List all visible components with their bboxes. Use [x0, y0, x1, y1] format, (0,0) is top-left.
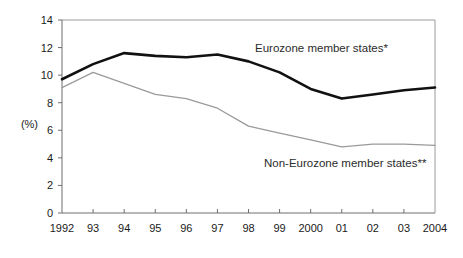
x-tick-label-1999: 99: [273, 222, 285, 234]
x-tick-label-1996: 96: [180, 222, 192, 234]
x-tick-label-2002: 02: [367, 222, 379, 234]
x-tick-label-2001: 01: [336, 222, 348, 234]
x-tick-label-1998: 98: [242, 222, 254, 234]
unemployment-rate-line-chart: 02468101214 1992939495969798992000010203…: [0, 0, 463, 258]
x-tick-label-2004: 2004: [423, 222, 447, 234]
chart-canvas: 02468101214 1992939495969798992000010203…: [0, 0, 463, 258]
series-label-non-eurozone: Non-Eurozone member states**: [264, 157, 427, 169]
x-tick-label-2000: 2000: [298, 222, 322, 234]
y-tick-label-6: 6: [47, 124, 53, 136]
x-tick-label-1995: 95: [149, 222, 161, 234]
x-tick-label-1992: 1992: [50, 222, 74, 234]
x-tick-label-2003: 03: [398, 222, 410, 234]
y-tick-label-0: 0: [47, 207, 53, 219]
y-tick-label-10: 10: [41, 69, 53, 81]
y-tick-label-14: 14: [41, 14, 53, 26]
chart-background: [0, 0, 463, 258]
x-tick-label-1994: 94: [118, 222, 130, 234]
y-tick-label-2: 2: [47, 179, 53, 191]
series-label-eurozone: Eurozone member states*: [255, 42, 388, 54]
x-tick-label-1993: 93: [87, 222, 99, 234]
x-tick-label-1997: 97: [211, 222, 223, 234]
y-axis-unit-label: (%): [21, 118, 38, 130]
y-tick-label-12: 12: [41, 42, 53, 54]
y-tick-label-8: 8: [47, 97, 53, 109]
y-tick-label-4: 4: [47, 152, 53, 164]
